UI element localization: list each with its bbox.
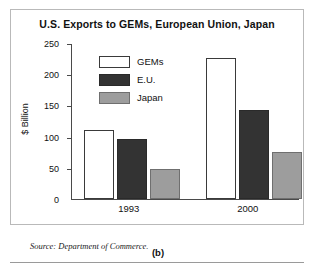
bar-gems-1993 [84, 130, 114, 199]
bar-japan-2000 [272, 152, 302, 199]
figure-caption: (b) [0, 247, 316, 258]
legend-label-japan: Japan [137, 92, 163, 103]
legend-label-eu: E.U. [137, 74, 155, 85]
chart-frame: U.S. Exports to GEMs, European Union, Ja… [10, 9, 304, 225]
bar-japan-1993 [150, 169, 180, 199]
y-tick-label: 100 [44, 133, 59, 142]
legend-label-gems: GEMs [137, 56, 163, 67]
y-tick-label: 200 [44, 71, 59, 80]
y-tick-label: 150 [44, 102, 59, 111]
legend-swatch-icon [99, 92, 130, 104]
legend-item-eu: E.U. [99, 72, 163, 87]
y-tick-label: 50 [49, 164, 59, 173]
bar-gems-2000 [206, 58, 236, 199]
bar-eu-2000 [239, 110, 269, 199]
y-tick-label: 0 [54, 196, 59, 205]
caption-divider [10, 262, 304, 263]
x-axis-label-2000: 2000 [191, 203, 305, 214]
legend-swatch-icon [99, 56, 130, 68]
chart-title: U.S. Exports to GEMs, European Union, Ja… [11, 18, 303, 30]
figure-panel: U.S. Exports to GEMs, European Union, Ja… [0, 0, 316, 272]
chart-legend: GEMs E.U. Japan [99, 54, 163, 108]
y-tick-label: 250 [44, 40, 59, 49]
bar-eu-1993 [117, 139, 147, 199]
y-axis-ticks: 250 200 150 100 50 0 [29, 44, 67, 200]
x-axis-label-1993: 1993 [72, 203, 186, 214]
legend-swatch-icon [99, 74, 130, 86]
x-axis-line [71, 199, 299, 200]
legend-item-japan: Japan [99, 90, 163, 105]
bar-group-2000 [186, 44, 300, 199]
legend-item-gems: GEMs [99, 54, 163, 69]
